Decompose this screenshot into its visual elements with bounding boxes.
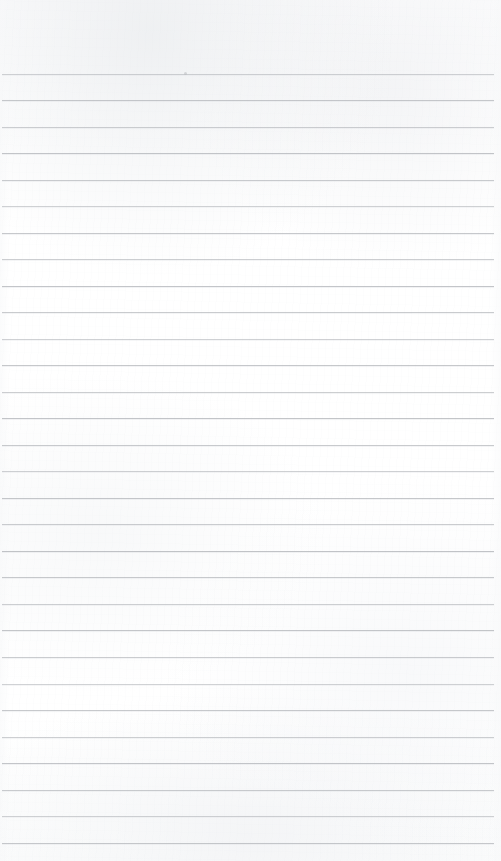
ruled-line [2, 392, 494, 393]
scan-speck [184, 72, 187, 75]
ruled-line [2, 524, 494, 525]
ruled-line [2, 763, 494, 764]
ruled-lines-group [0, 0, 501, 861]
ruled-line [2, 630, 494, 631]
ruled-line [2, 259, 494, 260]
ruled-line [2, 471, 494, 472]
ruled-line [2, 365, 494, 366]
ruled-line [2, 180, 494, 181]
ruled-line [2, 816, 494, 817]
ruled-line [2, 551, 494, 552]
ruled-line [2, 100, 494, 101]
ruled-line [2, 233, 494, 234]
ruled-line [2, 577, 494, 578]
ruled-line [2, 286, 494, 287]
ruled-line [2, 843, 494, 844]
ruled-line [2, 206, 494, 207]
ruled-line [2, 790, 494, 791]
ruled-line [2, 153, 494, 154]
ruled-line [2, 312, 494, 313]
ruled-line [2, 127, 494, 128]
ruled-line [2, 339, 494, 340]
ruled-line [2, 710, 494, 711]
scanned-page [0, 0, 501, 861]
ruled-line [2, 657, 494, 658]
ruled-line [2, 498, 494, 499]
ruled-line [2, 604, 494, 605]
ruled-line [2, 445, 494, 446]
ruled-line [2, 74, 494, 75]
ruled-line [2, 418, 494, 419]
ruled-line [2, 737, 494, 738]
ruled-line [2, 684, 494, 685]
